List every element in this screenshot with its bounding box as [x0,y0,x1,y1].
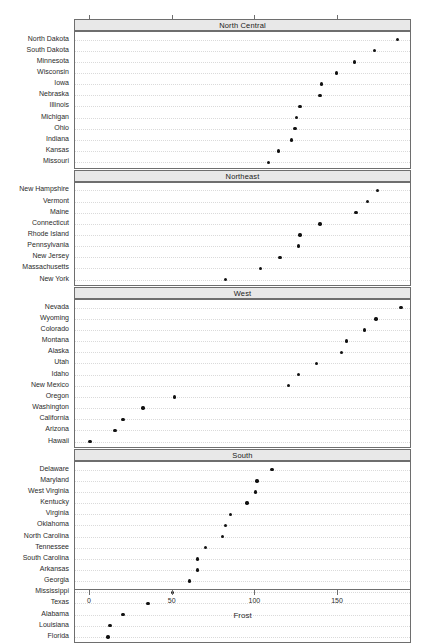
data-point [278,256,281,259]
chart-panel [74,31,411,169]
data-point [353,60,356,63]
grid-line [75,592,410,593]
data-point [146,602,149,605]
grid-line [75,341,410,342]
grid-line [75,408,410,409]
data-point [373,49,376,52]
y-axis-category-label: Nevada [0,303,71,311]
y-axis-category-label: North Dakota [0,35,71,43]
y-axis-category-label: Virginia [0,509,71,517]
chart-panel [74,182,411,286]
grid-line [75,397,410,398]
grid-line [75,548,410,549]
grid-line [75,62,410,63]
y-axis-category-label: Maryland [0,476,71,484]
data-point [88,440,91,443]
y-axis-category-label: Alaska [0,347,71,355]
data-point [354,211,357,214]
data-point [113,429,116,432]
data-point [335,71,338,74]
panel-strip-header: Northeast [74,170,411,182]
y-axis-category-label: Montana [0,336,71,344]
y-axis-category-label: Oklahoma [0,520,71,528]
y-axis-category-label: Georgia [0,576,71,584]
data-point [298,233,301,236]
y-axis-category-label: Delaware [0,465,71,473]
data-point [188,579,191,582]
y-axis-category-label: Tennessee [0,543,71,551]
data-point [396,38,399,41]
grid-line [75,40,410,41]
panel-strip-header: South [74,449,411,461]
y-axis-category-label: Ohio [0,124,71,132]
data-point [204,546,207,549]
data-point [293,127,296,130]
grid-line [75,537,410,538]
grid-line [75,162,410,163]
x-tick-label: 50 [152,596,192,605]
grid-line [75,51,410,52]
y-axis-category-label: Maine [0,208,71,216]
grid-line [75,95,410,96]
y-axis-category-label: Utah [0,358,71,366]
grid-line [75,430,410,431]
y-axis-category-label: Illinois [0,101,71,109]
y-axis-category-label: Arizona [0,425,71,433]
x-tick-bottom [89,590,90,595]
grid-line [75,492,410,493]
grid-line [75,386,410,387]
data-point [340,351,343,354]
grid-line [75,202,410,203]
data-point [295,116,298,119]
data-point [221,535,224,538]
data-point [374,317,377,320]
grid-line [75,129,410,130]
y-axis-category-label: Texas [0,598,71,606]
y-axis-category-label: Iowa [0,79,71,87]
data-point [318,222,321,225]
y-axis-category-label: California [0,414,71,422]
data-point [196,557,199,560]
data-point [363,328,366,331]
grid-line [75,151,410,152]
x-tick-bottom [337,590,338,595]
data-point [259,267,262,270]
y-axis-category-label: Alabama [0,610,71,618]
y-axis-category-label: Indiana [0,135,71,143]
y-axis-category-label: Kentucky [0,498,71,506]
y-axis-category-label: Vermont [0,197,71,205]
grid-line [75,106,410,107]
data-point [297,373,300,376]
grid-line [75,319,410,320]
grid-line [75,235,410,236]
grid-line [75,581,410,582]
data-point [224,524,227,527]
grid-line [75,246,410,247]
data-point [318,94,321,97]
y-axis-category-label: Massachusetts [0,263,71,271]
grid-line [75,525,410,526]
y-axis-category-label: Pennsylvania [0,241,71,249]
grid-line [75,514,410,515]
data-point [229,513,232,516]
grid-line [75,84,410,85]
y-axis-category-label: Kansas [0,146,71,154]
panel-strip-header: North Central [74,19,411,31]
grid-line [75,224,410,225]
y-axis-category-label: Florida [0,632,71,640]
x-tick-label: 0 [69,596,109,605]
chart-panel [74,299,411,448]
grid-line [75,118,410,119]
data-point [141,406,144,409]
y-axis-category-label: Michigan [0,113,71,121]
data-point [399,306,402,309]
data-point [298,105,301,108]
x-tick-label: 150 [317,596,357,605]
data-point [290,138,293,141]
y-axis-category-label: New Jersey [0,252,71,260]
data-point [270,468,273,471]
y-axis-category-label: Missouri [0,157,71,165]
data-point [121,418,124,421]
y-axis-category-label: Mississippi [0,587,71,595]
grid-line [75,73,410,74]
